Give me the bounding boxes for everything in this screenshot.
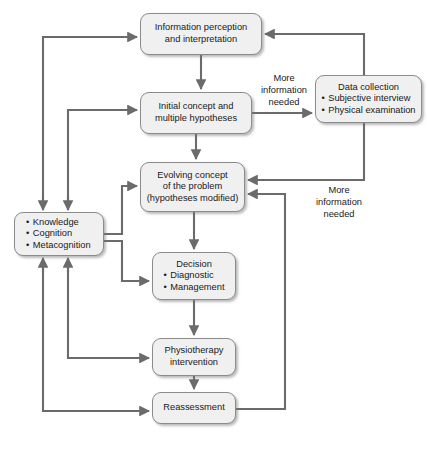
- edge-label-more-info-needed-right: More information needed: [300, 185, 378, 220]
- edge-reassessment-to-evolving: [236, 194, 285, 409]
- edge-label-line: needed: [300, 209, 378, 221]
- edge-label-line: More: [249, 73, 319, 85]
- node-line: Information perception: [155, 22, 248, 34]
- node-physiotherapy-intervention[interactable]: Physiotherapy intervention: [152, 338, 236, 376]
- edge-datacollection-to-evolving: [248, 123, 364, 180]
- node-line: (hypotheses modified): [147, 193, 238, 205]
- node-evolving-concept[interactable]: Evolving concept of the problem (hypothe…: [140, 162, 245, 212]
- node-decision[interactable]: Decision Diagnostic Management: [152, 252, 236, 300]
- edge-reassessment-to-knowledge: [43, 264, 149, 411]
- node-line: Initial concept and: [159, 101, 234, 113]
- node-bullet: Knowledge: [26, 217, 79, 229]
- node-bullet: Management: [163, 282, 224, 294]
- node-information-perception[interactable]: Information perception and interpretatio…: [140, 13, 262, 55]
- node-line: Reassessment: [163, 402, 225, 414]
- node-reassessment[interactable]: Reassessment: [152, 392, 236, 424]
- edge-perception-loop-from-knowledge: [43, 37, 137, 204]
- node-initial-concept[interactable]: Initial concept and multiple hypotheses: [140, 92, 252, 134]
- flowchart-diagram: Information perception and interpretatio…: [0, 0, 427, 450]
- node-line: multiple hypotheses: [155, 113, 237, 125]
- node-knowledge-cognition[interactable]: Knowledge Cognition Metacognition: [14, 212, 104, 256]
- node-bullet: Physical examination: [321, 105, 415, 117]
- node-bullet: Subjective interview: [321, 93, 410, 105]
- node-line: of the problem: [163, 181, 222, 193]
- edge-knowledge-to-evolving: [104, 186, 137, 234]
- node-bullet: Cognition: [26, 228, 72, 240]
- edge-label-more-info-needed-top: More information needed: [249, 73, 319, 108]
- edge-label-line: information: [249, 85, 319, 97]
- node-heading: Data collection: [338, 82, 399, 94]
- node-data-collection[interactable]: Data collection Subjective interview Phy…: [315, 75, 422, 123]
- node-line: and interpretation: [165, 34, 237, 46]
- node-bullet-list: Subjective interview Physical examinatio…: [321, 93, 415, 116]
- node-bullet-list: Diagnostic Management: [163, 270, 224, 293]
- node-line: Evolving concept: [157, 170, 227, 182]
- node-bullet: Diagnostic: [163, 270, 213, 282]
- node-heading: Decision: [176, 259, 212, 271]
- edge-label-line: More: [300, 185, 378, 197]
- node-bullet: Metacognition: [26, 240, 91, 252]
- node-line: Physiotherapy: [165, 345, 224, 357]
- edge-intervention-to-knowledge: [68, 264, 149, 358]
- node-line: intervention: [170, 357, 218, 369]
- edge-label-line: needed: [249, 97, 319, 109]
- edge-initial-loop-from-knowledge: [68, 110, 137, 204]
- edge-knowledge-to-decision: [104, 241, 149, 281]
- edge-datacollection-to-perception: [265, 34, 364, 75]
- edge-label-line: information: [300, 197, 378, 209]
